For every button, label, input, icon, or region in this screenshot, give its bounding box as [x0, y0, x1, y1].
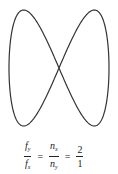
fraction-fy-fx: fy fx [24, 140, 31, 173]
equals-sign: = [65, 151, 71, 162]
fy-subscript: y [28, 146, 31, 152]
fraction-nx-ny: nx ny [49, 140, 59, 173]
frequency-ratio-formula: fy fx = nx ny = 2 1 [22, 140, 85, 173]
fx-subscript: x [28, 164, 31, 170]
lissajous-curve [9, 10, 109, 126]
ratio-denominator: 1 [76, 157, 83, 169]
ny-subscript: y [55, 164, 58, 170]
nx-subscript: x [55, 146, 58, 152]
lissajous-figure [0, 0, 118, 132]
equals-sign: = [37, 151, 43, 162]
ratio-numerator: 2 [76, 144, 83, 157]
fraction-ratio-value: 2 1 [76, 144, 83, 169]
